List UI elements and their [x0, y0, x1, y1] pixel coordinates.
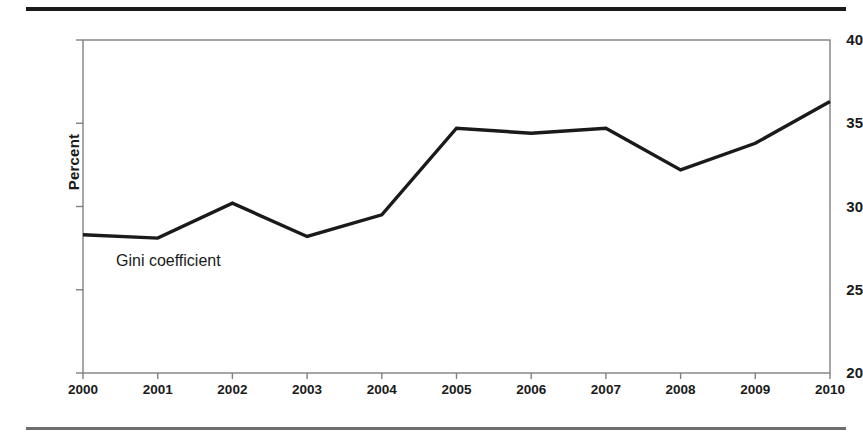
- plot-frame: [83, 40, 830, 373]
- x-tick-label: 2006: [501, 382, 561, 397]
- x-tick-label: 2009: [725, 382, 785, 397]
- x-tick-label: 2008: [651, 382, 711, 397]
- y-tick-label: 20: [825, 364, 863, 381]
- x-tick-label: 2010: [800, 382, 860, 397]
- x-tick-label: 2000: [53, 382, 113, 397]
- y-axis-ticks: [76, 40, 83, 373]
- x-tick-label: 2003: [277, 382, 337, 397]
- x-tick-label: 2005: [427, 382, 487, 397]
- series-annotation-label: Gini coefficient: [116, 252, 221, 270]
- x-tick-label: 2007: [576, 382, 636, 397]
- y-tick-label: 25: [825, 281, 863, 298]
- plot-area: 2025303540 20002001200220032004200520062…: [0, 0, 863, 437]
- line-chart-svg: [0, 0, 863, 437]
- y-tick-label: 35: [825, 114, 863, 131]
- figure-container: Percent 2025303540 200020012002200320042…: [0, 0, 863, 437]
- y-tick-label: 30: [825, 198, 863, 215]
- x-tick-label: 2002: [202, 382, 262, 397]
- data-series-group: [83, 102, 830, 239]
- x-tick-label: 2004: [352, 382, 412, 397]
- x-axis-ticks: [83, 373, 830, 379]
- y-tick-label: 40: [825, 31, 863, 48]
- x-tick-label: 2001: [128, 382, 188, 397]
